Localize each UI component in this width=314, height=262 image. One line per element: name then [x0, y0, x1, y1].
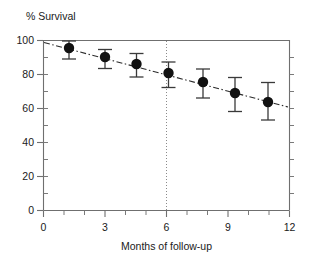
x-axis-major-ticks [44, 211, 290, 218]
y-tick-label-40: 40 [22, 136, 34, 148]
x-axis-title: Months of follow-up [121, 240, 212, 252]
y-axis-minor-ticks [44, 58, 49, 194]
y-tick-label-0: 0 [28, 204, 34, 216]
y-tick-label-80: 80 [22, 68, 34, 80]
data-series-survival [62, 41, 275, 120]
data-point-group [196, 69, 210, 98]
y-tick-label-60: 60 [22, 102, 34, 114]
survival-chart: 100 80 60 40 20 0 0 3 6 9 12 % Survival … [0, 0, 314, 262]
x-tick-label-12: 12 [284, 221, 296, 233]
data-point-marker [198, 77, 208, 87]
data-point-marker [100, 52, 110, 62]
chart-title: % Survival [26, 10, 76, 22]
x-tick-label-3: 3 [102, 221, 108, 233]
data-point-group [228, 78, 242, 112]
data-point-group [261, 83, 275, 121]
data-point-marker [263, 97, 273, 107]
right-axis-ticks [290, 58, 295, 194]
x-tick-label-0: 0 [41, 221, 47, 233]
x-tick-label-9: 9 [225, 221, 231, 233]
y-tick-label-100: 100 [16, 34, 34, 46]
data-point-group [130, 54, 144, 78]
data-point-group [162, 62, 176, 88]
data-point-marker [131, 59, 141, 69]
data-point-group [98, 50, 112, 69]
data-point-marker [230, 88, 240, 98]
chart-canvas: 100 80 60 40 20 0 0 3 6 9 12 % Survival … [0, 0, 314, 262]
x-tick-label-6: 6 [164, 221, 170, 233]
data-point-marker [64, 43, 74, 53]
y-axis-major-ticks [37, 41, 44, 211]
y-tick-label-20: 20 [22, 170, 34, 182]
data-point-marker [163, 68, 173, 78]
